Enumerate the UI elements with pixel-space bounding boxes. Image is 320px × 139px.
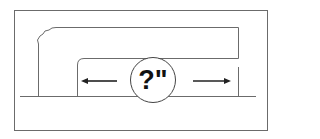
left-arrow-icon	[81, 78, 117, 84]
unknown-measurement-label: ?"	[130, 63, 176, 97]
right-arrow-icon	[193, 78, 231, 84]
